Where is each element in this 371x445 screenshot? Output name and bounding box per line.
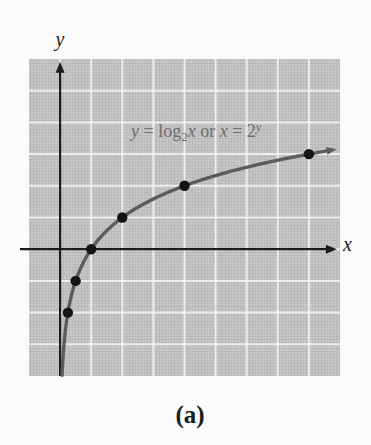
x-axis-arrowhead [326, 245, 337, 254]
data-point [117, 212, 127, 222]
y-axis-arrowhead [56, 62, 65, 73]
x-axis-label: x [343, 234, 352, 254]
equation-log-word: log [158, 121, 181, 141]
equation-or-word: or [196, 121, 220, 141]
equation-rhs-var: x [220, 121, 228, 141]
log-curve [62, 151, 327, 375]
log-curve-plot [0, 0, 371, 445]
data-point [304, 149, 314, 159]
figure-container: y x y = log2x or x = 2y (a) [0, 0, 371, 445]
equation-equals-1: = [139, 121, 158, 141]
figure-caption: (a) [140, 401, 240, 429]
equation-equals-2: = [228, 121, 247, 141]
equation-log-arg: x [188, 121, 196, 141]
equation-base: 2 [247, 121, 256, 141]
equation-exponent: y [256, 120, 261, 134]
data-point [86, 244, 96, 254]
curve-equation: y = log2x or x = 2y [131, 121, 261, 143]
data-point [70, 276, 80, 286]
data-point [179, 181, 189, 191]
equation-lhs-var: y [131, 121, 139, 141]
data-point [63, 307, 73, 317]
y-axis-label: y [49, 29, 71, 49]
